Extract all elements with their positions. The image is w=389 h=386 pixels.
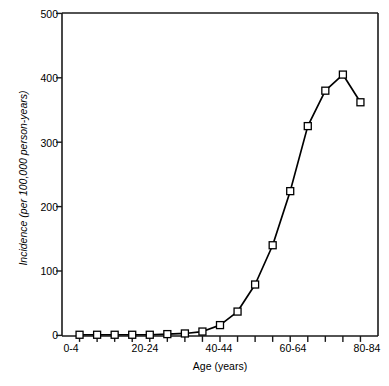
data-point [181, 330, 188, 337]
data-point [269, 242, 276, 249]
data-point [129, 331, 136, 338]
data-series-markers [76, 71, 364, 338]
y-axis-ticks [56, 13, 62, 335]
data-point [287, 188, 294, 195]
chart-figure: Incidence (per 100,000 person-years) 500… [0, 0, 389, 386]
data-point [164, 331, 171, 338]
plot-canvas [0, 0, 389, 386]
data-series-line [80, 75, 361, 335]
data-point [146, 331, 153, 338]
data-point [111, 331, 118, 338]
data-point [322, 87, 329, 94]
data-point [357, 99, 364, 106]
data-point [76, 331, 83, 338]
data-point [304, 123, 311, 130]
axes-frame [62, 13, 378, 336]
data-point [339, 71, 346, 78]
data-point [94, 331, 101, 338]
x-axis-ticks [80, 336, 361, 342]
data-point [199, 328, 206, 335]
data-point [252, 281, 259, 288]
data-point [217, 322, 224, 329]
data-point [234, 308, 241, 315]
